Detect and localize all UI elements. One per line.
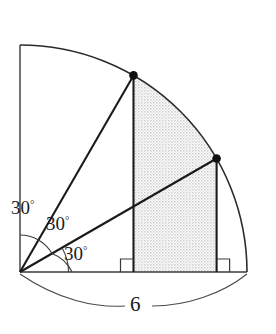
angle-label-1-value: 30 (11, 197, 30, 218)
right-angle-marker-left (121, 259, 134, 272)
dimension-arc-left (20, 274, 125, 306)
figure-canvas (0, 0, 276, 334)
dimension-arc-right (152, 274, 247, 306)
angle-label-3-value: 30 (64, 243, 83, 264)
geometry-figure: 30° 30° 30° 6 (0, 0, 276, 334)
degree-symbol-icon: ° (65, 214, 69, 226)
degree-symbol-icon: ° (83, 244, 87, 256)
degree-symbol-icon: ° (30, 198, 34, 210)
angle-label-60-to-30: 30° (46, 214, 69, 233)
angle-label-2-value: 30 (46, 213, 65, 234)
angle-label-30-to-0: 30° (64, 244, 87, 263)
shaded-region (134, 75, 217, 272)
radius-length-label: 6 (130, 294, 141, 315)
point-marker-30-degrees (212, 154, 221, 163)
right-angle-marker-right (217, 259, 230, 272)
point-marker-60-degrees (129, 71, 138, 80)
angle-label-90-to-60: 30° (11, 198, 34, 217)
